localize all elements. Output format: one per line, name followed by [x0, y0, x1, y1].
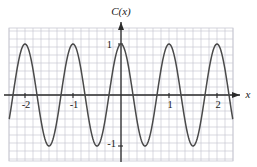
function-label: C(x): [111, 5, 131, 18]
y-tick-label-minus1: -1: [107, 138, 116, 149]
y-tick-label-1: 1: [107, 39, 112, 50]
graph-canvas: C(x) x -2 -1 1 2 1 -1: [0, 0, 257, 167]
x-axis-label: x: [245, 88, 251, 100]
x-tick-label-2: 2: [215, 99, 220, 110]
x-tick-label-minus2: -2: [22, 99, 31, 110]
function-graph-figure: C(x) x -2 -1 1 2 1 -1: [0, 0, 257, 167]
x-tick-label-minus1: -1: [70, 99, 79, 110]
x-tick-label-1: 1: [167, 99, 172, 110]
figure-background: [0, 0, 257, 167]
